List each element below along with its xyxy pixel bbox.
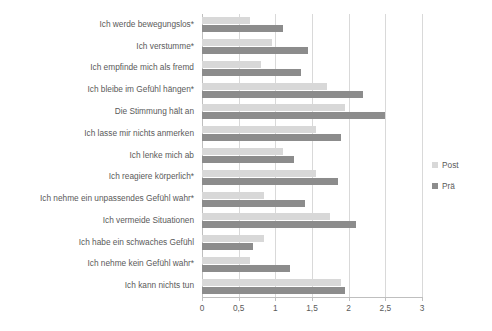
bar-prae: [202, 25, 283, 32]
x-tick: [349, 297, 350, 301]
bar-group: [202, 188, 422, 210]
bar-post: [202, 126, 316, 133]
gridline: [422, 14, 423, 297]
plot-area: [202, 14, 422, 297]
legend-label: Prä: [442, 181, 455, 191]
x-tick: [312, 297, 313, 301]
bar-group: [202, 166, 422, 188]
category-label: Ich empfinde mich als fremd: [90, 63, 194, 72]
bar-group: [202, 14, 422, 36]
bar-prae: [202, 178, 338, 185]
bar-prae: [202, 156, 294, 163]
bar-prae: [202, 47, 308, 54]
bar-prae: [202, 69, 301, 76]
bar-prae: [202, 287, 345, 294]
x-tick-label: 1: [273, 303, 278, 313]
x-tick: [275, 297, 276, 301]
x-tick: [422, 297, 423, 301]
category-label: Ich lenke mich ab: [129, 151, 194, 160]
bar-post: [202, 104, 345, 111]
bar-post: [202, 83, 327, 90]
x-tick: [202, 297, 203, 301]
bar-group: [202, 145, 422, 167]
category-label: Ich verstumme*: [136, 42, 194, 51]
legend-item[interactable]: Prä: [432, 181, 459, 191]
category-label: Ich kann nichts tun: [125, 281, 194, 290]
bar-rows: [202, 14, 422, 297]
bar-post: [202, 192, 264, 199]
category-label: Ich habe ein schwaches Gefühl: [79, 238, 194, 247]
bar-group: [202, 101, 422, 123]
category-label: Ich nehme kein Gefühl wahr*: [87, 259, 194, 268]
legend-swatch-icon: [432, 162, 438, 168]
bar-prae: [202, 112, 385, 119]
category-label: Ich nehme ein unpassendes Gefühl wahr*: [40, 194, 194, 203]
bar-post: [202, 61, 261, 68]
x-tick-label: 0: [200, 303, 205, 313]
bar-group: [202, 232, 422, 254]
bar-group: [202, 210, 422, 232]
bar-group: [202, 36, 422, 58]
category-label: Ich lasse mir nichts anmerken: [84, 129, 194, 138]
bar-group: [202, 275, 422, 297]
bar-post: [202, 17, 250, 24]
x-tick-label: 0,5: [233, 303, 245, 313]
bar-post: [202, 213, 330, 220]
category-axis-labels: Ich werde bewegungslos*Ich verstumme*Ich…: [0, 14, 198, 297]
category-label: Ich reagiere körperlich*: [109, 172, 194, 181]
bar-prae: [202, 134, 341, 141]
bar-post: [202, 257, 250, 264]
legend: PostPrä: [432, 160, 459, 202]
bar-post: [202, 39, 272, 46]
x-tick-label: 3: [420, 303, 425, 313]
bar-chart: Ich werde bewegungslos*Ich verstumme*Ich…: [0, 0, 492, 331]
legend-label: Post: [442, 160, 459, 170]
bar-prae: [202, 221, 356, 228]
bar-post: [202, 148, 283, 155]
x-tick-label: 1,5: [306, 303, 318, 313]
bar-group: [202, 123, 422, 145]
x-tick-label: 2: [346, 303, 351, 313]
bar-group: [202, 253, 422, 275]
category-label: Die Stimmung hält an: [115, 107, 194, 116]
bar-post: [202, 170, 316, 177]
bar-post: [202, 235, 264, 242]
legend-swatch-icon: [432, 183, 438, 189]
bar-prae: [202, 265, 290, 272]
bar-group: [202, 79, 422, 101]
x-tick: [239, 297, 240, 301]
x-tick-label: 2,5: [380, 303, 392, 313]
bar-group: [202, 58, 422, 80]
legend-item[interactable]: Post: [432, 160, 459, 170]
bar-post: [202, 279, 341, 286]
category-label: Ich bleibe im Gefühl hängen*: [87, 85, 194, 94]
x-tick: [385, 297, 386, 301]
category-label: Ich vermeide Situationen: [103, 216, 194, 225]
bar-prae: [202, 243, 253, 250]
bar-prae: [202, 91, 363, 98]
bar-prae: [202, 200, 305, 207]
category-label: Ich werde bewegungslos*: [99, 20, 194, 29]
